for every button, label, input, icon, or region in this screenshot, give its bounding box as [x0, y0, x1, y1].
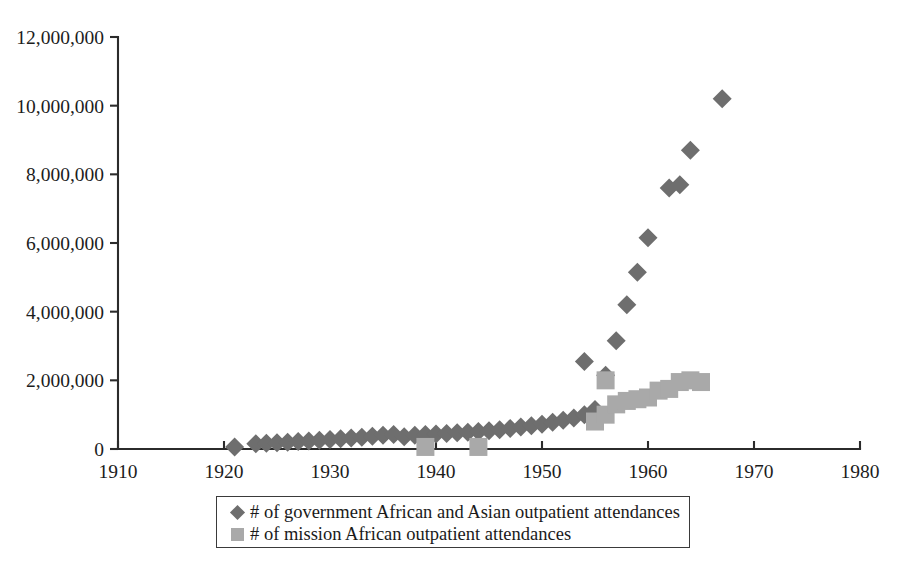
- data-point-diamond: [639, 228, 658, 247]
- y-tick-label: 10,000,000: [16, 96, 104, 117]
- y-axis: 02,000,0004,000,0006,000,0008,000,00010,…: [16, 27, 118, 460]
- x-tick-label: 1920: [205, 461, 244, 482]
- chart-legend: # of government African and Asian outpat…: [216, 496, 690, 548]
- legend-item-government: # of government African and Asian outpat…: [231, 502, 689, 523]
- y-tick-label: 12,000,000: [16, 27, 104, 48]
- x-tick-label: 1940: [417, 461, 456, 482]
- diamond-marker-icon: [230, 505, 245, 520]
- legend-label-government: # of government African and Asian outpat…: [250, 503, 680, 522]
- data-point-square: [597, 371, 615, 389]
- square-marker-icon: [231, 528, 244, 541]
- legend-label-mission: # of mission African outpatient attendan…: [250, 525, 571, 544]
- y-tick-label: 6,000,000: [26, 233, 104, 254]
- y-tick-label: 8,000,000: [26, 164, 104, 185]
- data-point-diamond: [617, 295, 636, 314]
- x-tick-label: 1910: [99, 461, 138, 482]
- y-tick-label: 0: [94, 439, 104, 460]
- y-axis-ticks: [110, 37, 118, 449]
- x-axis-tick-labels: 19101920193019401950196019701980: [99, 461, 880, 482]
- data-point-diamond: [681, 141, 700, 160]
- y-tick-label: 2,000,000: [26, 370, 104, 391]
- data-point-diamond: [607, 331, 626, 350]
- x-tick-label: 1950: [523, 461, 562, 482]
- data-point-diamond: [628, 263, 647, 282]
- data-point-diamond: [575, 352, 594, 371]
- data-point-square: [416, 438, 434, 456]
- x-axis: 19101920193019401950196019701980: [99, 441, 880, 482]
- x-tick-label: 1980: [841, 461, 880, 482]
- scatter-chart: 02,000,0004,000,0006,000,0008,000,00010,…: [0, 0, 898, 581]
- data-point-square: [692, 373, 710, 391]
- data-point-diamond: [713, 89, 732, 108]
- y-tick-label: 4,000,000: [26, 302, 104, 323]
- plot-area: 02,000,0004,000,0006,000,0008,000,00010,…: [0, 0, 898, 490]
- data-series-layer: [225, 89, 732, 456]
- data-point-diamond: [225, 437, 244, 456]
- x-tick-label: 1960: [629, 461, 668, 482]
- y-axis-tick-labels: 02,000,0004,000,0006,000,0008,000,00010,…: [16, 27, 104, 460]
- x-tick-label: 1930: [311, 461, 350, 482]
- data-point-square: [469, 438, 487, 456]
- legend-item-mission: # of mission African outpatient attendan…: [231, 524, 689, 545]
- x-tick-label: 1970: [735, 461, 774, 482]
